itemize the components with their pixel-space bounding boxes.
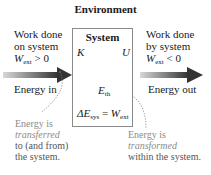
kinetic-energy-label: K	[77, 46, 84, 58]
transformed-note: Energy is transformed within the system.	[128, 129, 201, 162]
environment-title: Environment	[0, 3, 211, 15]
potential-energy-label: U	[122, 46, 130, 58]
work-by-system-label: Work done by system Wext < 0	[146, 28, 194, 68]
energy-in-label: Energy in	[14, 83, 57, 95]
work-on-system-label: Work done on system Wext > 0	[14, 28, 62, 68]
system-title: System	[72, 31, 133, 43]
energy-out-label: Energy out	[148, 83, 196, 95]
energy-equation: ΔEsys = Wext	[77, 107, 129, 123]
transferred-note: Energy is transferred to (and from) the …	[15, 118, 68, 162]
energy-out-arrow-icon	[140, 67, 203, 83]
thermal-energy-label: Eth	[98, 84, 110, 100]
energy-in-arrow-icon	[3, 67, 72, 83]
